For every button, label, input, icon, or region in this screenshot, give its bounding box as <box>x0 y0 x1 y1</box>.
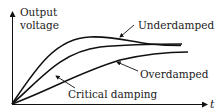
overdamped-label: Overdamped <box>140 68 209 80</box>
x-axis-label: t <box>210 98 215 111</box>
underdamped-label: Underdamped <box>138 19 214 31</box>
overdamped-leader <box>117 62 138 71</box>
critical-damping-label: Critical damping <box>68 88 158 100</box>
y-axis-label-line2: voltage <box>19 19 59 31</box>
y-axis-label-line1: Output <box>20 6 58 18</box>
underdamped-leader <box>120 25 134 37</box>
damping-diagram: Output voltage t Underdamped Overdamped … <box>0 0 219 111</box>
